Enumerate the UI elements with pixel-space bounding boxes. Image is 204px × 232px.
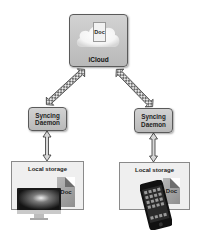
- smartphone-icon: [140, 180, 172, 230]
- daemon-left-line1: Syncing: [35, 112, 60, 120]
- arrow-icloud-to-right-daemon: [112, 66, 156, 111]
- daemon-right-line2: Daemon: [141, 121, 166, 129]
- local-storage-left-label: Local storage: [12, 166, 83, 172]
- arrow-right-daemon-to-storage: [150, 133, 158, 162]
- icloud-label: iCloud: [70, 56, 127, 63]
- icloud-doc-label: Doc: [94, 29, 105, 35]
- arrow-icloud-to-left-daemon: [42, 65, 88, 109]
- arrow-left-daemon-to-storage: [43, 131, 51, 161]
- desktop-computer-icon: [17, 188, 61, 220]
- syncing-daemon-left: Syncing Daemon: [28, 107, 67, 131]
- icloud-doc-icon: Doc: [93, 22, 106, 42]
- local-storage-right-label: Local storage: [120, 167, 189, 173]
- daemon-right-line1: Syncing: [141, 113, 166, 121]
- daemon-left-line2: Daemon: [35, 119, 60, 127]
- icloud-node: Doc iCloud: [69, 14, 128, 67]
- syncing-daemon-right: Syncing Daemon: [134, 108, 173, 133]
